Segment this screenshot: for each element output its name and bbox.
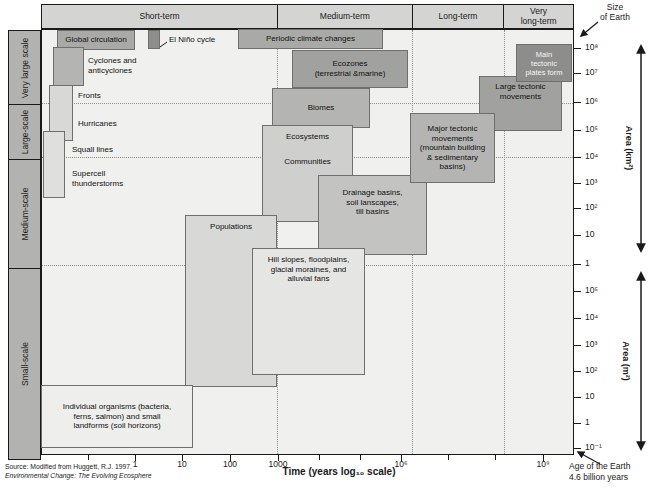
y-km-tick <box>574 235 581 237</box>
header-medium-term: Medium-term <box>277 5 411 28</box>
x-axis-tick-label: 100 <box>212 459 248 469</box>
y-m-tick-label: 10⁵ <box>585 285 598 295</box>
y-km-tick <box>574 157 581 159</box>
y-m-tick <box>574 448 581 450</box>
sidebar-small-scale: Small-scale <box>9 269 40 459</box>
ecosystems-label: Ecosystems <box>286 132 329 142</box>
y-km-tick-label: 10⁶ <box>585 96 598 106</box>
time-scale-header: Short-term Medium-term Long-term Very lo… <box>41 4 574 29</box>
box-periodic-climate-changes: Periodic climate changes <box>238 29 383 49</box>
size-of-earth-arrow <box>581 22 598 36</box>
y-m-tick <box>574 345 581 347</box>
y-m-tick-label: 10² <box>585 365 597 375</box>
box-drainage-basins: Drainage basins, soil lanscapes, till ba… <box>318 175 427 255</box>
area-m2-axis-title: Area (m²) <box>619 306 633 416</box>
y-km-tick <box>574 48 581 50</box>
y-m-tick <box>574 397 581 399</box>
box-el-nino <box>148 30 160 49</box>
x-axis-minor-tick <box>495 455 497 460</box>
sidebar-very-large-scale-label: Very large scale <box>20 37 30 97</box>
cyclones-label: Cyclones and anticyclones <box>88 56 136 76</box>
area-km2-axis-title: Area (km²) <box>622 93 636 203</box>
age-of-earth-annotation: Age of the Earth 4.6 billion years <box>569 461 651 482</box>
y-km-tick-label: 1 <box>585 258 590 268</box>
scale-diagram: Short-term Medium-term Long-term Very lo… <box>0 0 652 495</box>
sidebar-small-scale-label: Small-scale <box>20 342 30 386</box>
sidebar-large-scale-label: Large-scale <box>20 110 30 154</box>
box-squall-supercell <box>43 131 65 198</box>
box-main-tectonic: Main tectonic plates form <box>516 44 572 82</box>
hurricanes-label: Hurricanes <box>78 119 117 129</box>
x-axis-tick-label: 1000 <box>260 459 296 469</box>
y-m-tick-label: 10⁻¹ <box>585 442 602 452</box>
x-axis-tick-label: 10⁹ <box>525 459 561 469</box>
sidebar-large-scale: Large-scale <box>9 105 40 160</box>
y-km-tick-label: 10⁸ <box>585 42 598 52</box>
box-hill-slopes: Hill slopes, floodplains, glacial morain… <box>252 248 365 375</box>
y-km-tick <box>574 264 581 266</box>
y-km-tick <box>574 208 581 210</box>
x-axis-minor-tick <box>319 455 321 460</box>
x-axis-minor-tick <box>448 455 450 460</box>
x-axis-minor-tick <box>360 455 362 460</box>
y-km-tick <box>574 130 581 132</box>
x-axis-tick-label: 1 <box>117 459 153 469</box>
squall-lines-label: Squall lines <box>72 145 113 155</box>
y-m-tick-label: 10 <box>585 391 594 401</box>
y-km-tick-label: 10⁷ <box>585 67 598 77</box>
box-cyclones <box>53 47 84 86</box>
box-individual-organisms: Individual organisms (bacteria, ferns, s… <box>41 385 193 448</box>
y-km-tick-label: 10³ <box>585 177 597 187</box>
y-m-tick-label: 1 <box>585 417 590 427</box>
sidebar-medium-scale: Medium-scale <box>9 160 40 269</box>
source-line-2: Environmental Change: The Evolving Ecosp… <box>5 471 152 480</box>
box-major-tectonic: Major tectonic movements (mountain build… <box>410 113 495 183</box>
spatial-scale-sidebar: Very large scale Large-scale Medium-scal… <box>8 30 41 460</box>
x-axis-tick-label: 10 <box>164 459 200 469</box>
y-km-tick-label: 10⁴ <box>585 151 598 161</box>
x-axis-minor-tick <box>88 455 90 460</box>
y-m-tick-label: 10⁴ <box>585 312 598 322</box>
y-km-tick-label: 10² <box>585 202 597 212</box>
y-km-tick <box>574 102 581 104</box>
box-ecozones: Ecozones (terrestrial &marine) <box>292 50 408 88</box>
box-biomes: Biomes <box>272 88 370 128</box>
y-m-tick <box>574 423 581 425</box>
y-km-tick-label: 10⁵ <box>585 124 598 134</box>
y-m-tick-label: 10³ <box>585 339 597 349</box>
fronts-label: Fronts <box>78 91 101 101</box>
supercell-label: Supercell thunderstorms <box>72 169 123 189</box>
header-short-term: Short-term <box>42 5 277 28</box>
sidebar-medium-scale-label: Medium-scale <box>20 188 30 241</box>
x-axis-tick-label: 10⁶ <box>383 459 419 469</box>
communities-label: Communities <box>284 157 331 167</box>
sidebar-very-large-scale: Very large scale <box>9 31 40 105</box>
y-m-tick <box>574 371 581 373</box>
el-nino-label: El Niño cycle <box>169 35 215 45</box>
header-very-long-term: Very long-term <box>503 5 573 28</box>
header-long-term: Long-term <box>412 5 504 28</box>
size-of-earth-annotation: Size of Earth <box>586 3 644 23</box>
y-km-tick-label: 10 <box>585 229 594 239</box>
y-m-tick <box>574 318 581 320</box>
y-km-tick <box>574 183 581 185</box>
y-km-tick <box>574 73 581 75</box>
y-m-tick <box>574 291 581 293</box>
